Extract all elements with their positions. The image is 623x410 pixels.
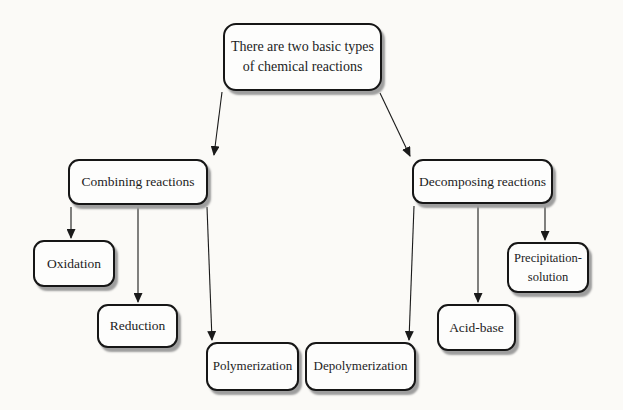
node-root: There are two basic types of chemical re…: [223, 23, 382, 91]
edge-decomposing-depolymerization: [409, 206, 414, 340]
node-decomposing-label: Decomposing reactions: [419, 172, 546, 192]
edge-root-combining: [214, 92, 222, 155]
flowchart-canvas: There are two basic types of chemical re…: [0, 0, 623, 410]
node-precipitation-label-line1: Precipitation-: [514, 249, 582, 268]
node-acid-base: Acid-base: [437, 304, 516, 351]
node-combining-label: Combining reactions: [82, 172, 195, 192]
edge-combining-polymerization: [207, 207, 212, 340]
node-depolymerization: Depolymerization: [305, 342, 416, 391]
node-combining-reactions: Combining reactions: [68, 159, 208, 205]
node-depolymerization-label: Depolymerization: [314, 357, 408, 376]
node-root-label-line2: of chemical reactions: [243, 57, 363, 77]
edge-root-decomposing: [380, 93, 410, 156]
node-oxidation: Oxidation: [33, 240, 115, 287]
node-reduction: Reduction: [97, 304, 178, 348]
node-acid-base-label: Acid-base: [449, 318, 504, 338]
node-oxidation-label: Oxidation: [47, 254, 101, 274]
node-precipitation-label-line2: solution: [528, 268, 568, 287]
node-polymerization: Polymerization: [206, 342, 299, 391]
node-root-label-line1: There are two basic types: [231, 37, 374, 57]
node-decomposing-reactions: Decomposing reactions: [412, 159, 553, 204]
node-precipitation-solution: Precipitation- solution: [507, 242, 589, 293]
node-polymerization-label: Polymerization: [213, 357, 292, 376]
node-reduction-label: Reduction: [110, 316, 166, 336]
